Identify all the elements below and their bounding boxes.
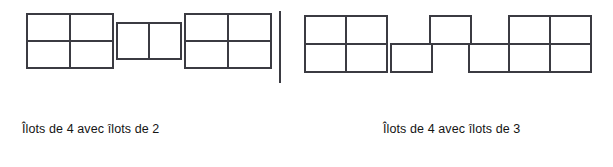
ilot-de-4-group — [304, 15, 388, 73]
seat-cell — [148, 22, 182, 60]
seat-cell — [227, 40, 272, 69]
seat-cell — [508, 15, 551, 45]
diagram-canvas: Îlots de 4 avec îlots de 2 (pour élèves … — [0, 0, 613, 167]
ilot-de-4-group — [184, 13, 272, 69]
seat-cell — [26, 13, 71, 42]
seat-cell — [429, 15, 472, 45]
ilot-de-2-group — [116, 22, 182, 60]
seat-cell — [227, 13, 272, 42]
seat-cell — [549, 43, 592, 73]
right-panel-caption: Îlots de 4 avec îlots de 3 — [383, 86, 520, 167]
seat-cell — [345, 15, 388, 45]
seat-cell — [69, 13, 114, 42]
seat-cell — [26, 40, 71, 69]
seat-cell — [304, 15, 347, 45]
seat-cell — [390, 43, 433, 73]
ilot-de-3-group — [390, 15, 510, 73]
panel-divider — [279, 11, 281, 83]
caption-line: Îlots de 4 avec îlots de 3 — [383, 121, 520, 139]
seat-cell — [304, 43, 347, 73]
seat-cell — [184, 13, 229, 42]
left-panel-caption: Îlots de 4 avec îlots de 2 (pour élèves … — [22, 86, 184, 167]
seat-cell — [549, 15, 592, 45]
seat-cell — [468, 43, 511, 73]
seat-cell — [184, 40, 229, 69]
seat-cell — [69, 40, 114, 69]
seat-cell — [508, 43, 551, 73]
seat-cell — [116, 22, 150, 60]
caption-line: Îlots de 4 avec îlots de 2 — [22, 121, 184, 139]
ilot-de-4-group — [508, 15, 592, 73]
seat-cell — [345, 43, 388, 73]
ilot-de-4-group — [26, 13, 114, 69]
